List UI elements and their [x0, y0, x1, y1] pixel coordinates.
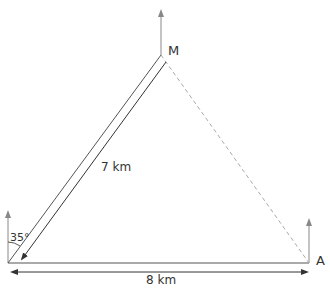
edge-m-a-dashed: [161, 55, 309, 263]
edge-origin-m: [8, 55, 161, 263]
side-om-label: 7 km: [101, 160, 131, 174]
point-a-label: A: [316, 253, 325, 268]
side-oa-label: 8 km: [146, 273, 176, 287]
triangle-diagram: 35° 7 km 8 km M A: [0, 0, 330, 288]
angle-label: 35°: [10, 231, 30, 244]
point-m-label: M: [168, 43, 179, 58]
vector-7km-arrow: [22, 62, 166, 259]
